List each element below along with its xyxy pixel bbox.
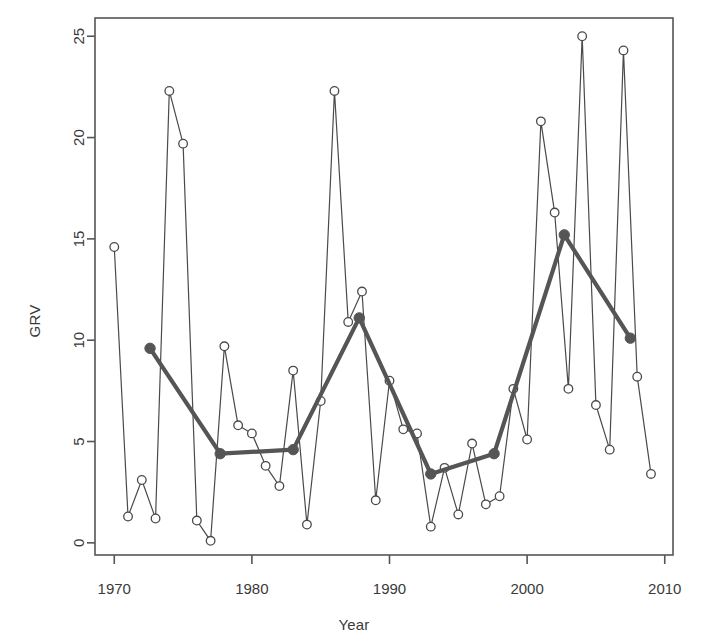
annual-point-marker xyxy=(110,243,119,252)
smoothed-trend-series xyxy=(145,230,636,480)
annual-point-marker xyxy=(151,514,160,523)
x-tick-label: 2000 xyxy=(510,580,543,597)
annual-point-marker xyxy=(605,445,614,454)
smoothed-point-marker xyxy=(489,448,499,458)
chart-plot-area: 051015202519701980199020002010 xyxy=(0,0,708,641)
plot-frame xyxy=(95,18,673,555)
annual-point-marker xyxy=(261,462,270,471)
annual-point-marker xyxy=(248,429,257,438)
annual-point-marker xyxy=(206,537,215,546)
annual-point-marker xyxy=(234,421,243,430)
smoothed-trend-line xyxy=(150,235,630,474)
y-tick-label: 20 xyxy=(71,129,88,146)
annual-point-marker xyxy=(468,439,477,448)
smoothed-point-marker xyxy=(354,313,364,323)
smoothed-point-marker xyxy=(288,444,298,454)
annual-point-marker xyxy=(165,87,174,96)
annual-point-marker xyxy=(289,366,298,375)
y-tick-label: 15 xyxy=(71,231,88,248)
annual-point-marker xyxy=(564,385,573,394)
annual-point-marker xyxy=(647,470,656,479)
annual-point-marker xyxy=(371,496,380,505)
smoothed-point-marker xyxy=(215,448,225,458)
x-tick-label: 1970 xyxy=(98,580,131,597)
smoothed-point-marker xyxy=(145,343,155,353)
annual-point-marker xyxy=(523,435,532,444)
annual-point-marker xyxy=(137,476,146,485)
y-tick-label: 0 xyxy=(71,539,88,547)
y-tick-label: 10 xyxy=(71,332,88,349)
annual-point-marker xyxy=(179,139,188,148)
annual-line xyxy=(114,36,651,541)
y-tick-label: 5 xyxy=(71,437,88,445)
x-tick-label: 1990 xyxy=(373,580,406,597)
annual-point-marker xyxy=(454,510,463,519)
annual-point-marker xyxy=(344,318,353,327)
y-axis-label: GRV xyxy=(26,304,43,337)
annual-point-marker xyxy=(193,516,202,525)
smoothed-point-marker xyxy=(559,230,569,240)
x-tick-label: 1980 xyxy=(235,580,268,597)
smoothed-point-marker xyxy=(426,469,436,479)
annual-point-marker xyxy=(124,512,133,521)
annual-point-marker xyxy=(537,117,546,126)
annual-point-marker xyxy=(220,342,229,351)
annual-point-marker xyxy=(633,372,642,381)
annual-point-marker xyxy=(399,425,408,434)
annual-point-marker xyxy=(592,401,601,410)
x-axis-label: Year xyxy=(0,616,708,633)
annual-point-marker xyxy=(275,482,284,491)
annual-point-marker xyxy=(482,500,491,509)
annual-point-marker xyxy=(426,522,435,531)
annual-point-marker xyxy=(303,520,312,529)
annual-point-marker xyxy=(330,87,339,96)
annual-point-marker xyxy=(550,208,559,217)
annual-series xyxy=(110,32,655,545)
chart-figure: 051015202519701980199020002010 GRV Year xyxy=(0,0,708,641)
annual-point-marker xyxy=(578,32,587,41)
y-tick-label: 25 xyxy=(71,28,88,45)
x-tick-label: 2010 xyxy=(648,580,681,597)
annual-point-marker xyxy=(619,46,628,55)
annual-point-marker xyxy=(358,287,367,296)
annual-point-marker xyxy=(495,492,504,501)
smoothed-point-marker xyxy=(625,333,635,343)
